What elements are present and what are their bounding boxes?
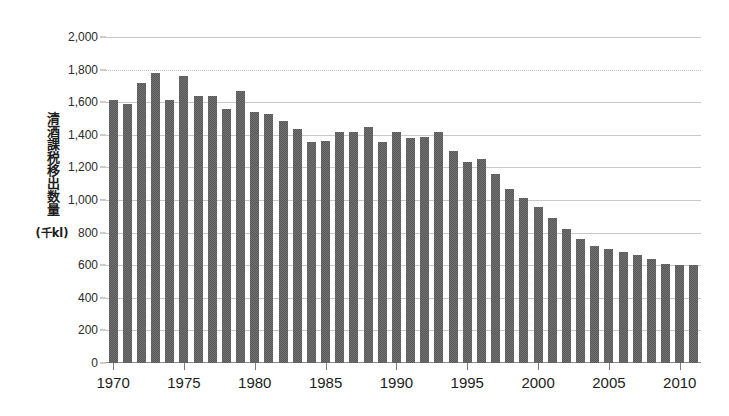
y-tick-mark-400 xyxy=(100,297,106,298)
bar-1987 xyxy=(349,132,358,363)
y-tick-label-1000: 1,000 xyxy=(68,193,98,207)
y-tick-mark-800 xyxy=(100,232,106,233)
bar-1996 xyxy=(477,159,486,363)
bar-1980 xyxy=(250,112,259,363)
bar-1997 xyxy=(491,174,500,363)
bar-2010 xyxy=(675,265,684,363)
bar-2005 xyxy=(604,249,613,363)
bar-1992 xyxy=(420,137,429,363)
sake-shipment-bar-chart: 清酒課税移出数量 (千kl) 02004006008001,0001,2001,… xyxy=(0,0,729,416)
bar-2011 xyxy=(689,265,698,363)
x-tick-label-1980: 1980 xyxy=(238,374,271,391)
gridline-2000 xyxy=(106,37,701,38)
bar-2001 xyxy=(548,218,557,363)
y-tick-label-400: 400 xyxy=(78,291,98,305)
bar-1989 xyxy=(378,142,387,363)
x-tick-mark-2000 xyxy=(538,363,539,370)
bar-1999 xyxy=(519,198,528,363)
bar-1975 xyxy=(179,76,188,363)
y-tick-label-1200: 1,200 xyxy=(68,160,98,174)
bar-1973 xyxy=(151,73,160,363)
bar-1993 xyxy=(434,132,443,363)
plot-area: 02004006008001,0001,2001,4001,6001,8002,… xyxy=(106,37,701,363)
bar-2007 xyxy=(633,255,642,363)
y-tick-mark-0 xyxy=(100,363,106,364)
y-tick-mark-1600 xyxy=(100,102,106,103)
x-tick-label-1990: 1990 xyxy=(380,374,413,391)
bar-1990 xyxy=(392,132,401,363)
bar-1984 xyxy=(307,142,316,363)
x-tick-mark-2005 xyxy=(609,363,610,370)
y-tick-mark-200 xyxy=(100,330,106,331)
y-tick-label-200: 200 xyxy=(78,323,98,337)
y-tick-label-0: 0 xyxy=(91,356,98,370)
bar-1977 xyxy=(208,96,217,363)
bar-1995 xyxy=(463,162,472,363)
bar-1974 xyxy=(165,100,174,363)
y-tick-mark-1800 xyxy=(100,69,106,70)
bar-2009 xyxy=(661,264,670,363)
bar-1978 xyxy=(222,109,231,363)
y-tick-label-800: 800 xyxy=(78,226,98,240)
bar-1985 xyxy=(321,141,330,363)
bar-1976 xyxy=(194,96,203,363)
bar-2004 xyxy=(590,246,599,363)
x-tick-label-2000: 2000 xyxy=(521,374,554,391)
bar-1982 xyxy=(279,121,288,363)
y-tick-label-1600: 1,600 xyxy=(68,95,98,109)
bar-1983 xyxy=(293,129,302,363)
y-tick-mark-2000 xyxy=(100,37,106,38)
bar-1991 xyxy=(406,138,415,363)
bar-1986 xyxy=(335,132,344,363)
x-tick-mark-1995 xyxy=(467,363,468,370)
x-tick-mark-2010 xyxy=(680,363,681,370)
bar-1979 xyxy=(236,91,245,363)
y-tick-mark-1400 xyxy=(100,134,106,135)
y-axis-title: 清酒課税移出数量 xyxy=(45,112,59,216)
x-tick-label-1975: 1975 xyxy=(167,374,200,391)
gridline-1800 xyxy=(106,70,701,71)
y-tick-label-1400: 1,400 xyxy=(68,128,98,142)
x-tick-mark-1975 xyxy=(184,363,185,370)
y-tick-mark-600 xyxy=(100,265,106,266)
y-tick-label-600: 600 xyxy=(78,258,98,272)
bar-1972 xyxy=(137,83,146,363)
x-tick-mark-1990 xyxy=(396,363,397,370)
bar-2002 xyxy=(562,229,571,363)
y-tick-mark-1000 xyxy=(100,200,106,201)
y-tick-label-1800: 1,800 xyxy=(68,63,98,77)
x-tick-label-2010: 2010 xyxy=(663,374,696,391)
x-tick-mark-1985 xyxy=(326,363,327,370)
bar-1994 xyxy=(449,151,458,363)
x-tick-label-1970: 1970 xyxy=(96,374,129,391)
bar-1988 xyxy=(364,127,373,363)
x-tick-mark-1980 xyxy=(255,363,256,370)
bar-2003 xyxy=(576,239,585,363)
x-tick-label-2005: 2005 xyxy=(592,374,625,391)
y-tick-mark-1200 xyxy=(100,167,106,168)
bar-1981 xyxy=(264,114,273,363)
x-tick-label-1985: 1985 xyxy=(309,374,342,391)
bar-2008 xyxy=(647,259,656,363)
x-tick-mark-1970 xyxy=(113,363,114,370)
x-tick-label-1995: 1995 xyxy=(451,374,484,391)
y-axis-unit-label: (千kl) xyxy=(30,224,74,240)
bar-1971 xyxy=(123,104,132,363)
bar-1970 xyxy=(109,100,118,363)
y-tick-label-2000: 2,000 xyxy=(68,30,98,44)
bar-2006 xyxy=(619,252,628,363)
bar-2000 xyxy=(534,207,543,363)
bar-1998 xyxy=(505,189,514,363)
